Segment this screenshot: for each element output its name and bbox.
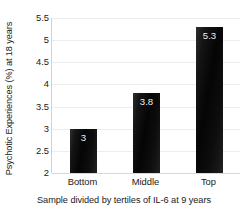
y-axis-tick-label: 4 [18, 79, 49, 89]
bar-chart: Psychotic Experiences (%) at 18 years 5.… [0, 0, 248, 213]
y-axis-tick-label: 4.5 [18, 57, 49, 67]
gridline [52, 173, 240, 174]
y-axis-tick-label: 2.5 [18, 146, 49, 156]
bar-value-label: 5.3 [196, 30, 223, 41]
bar: 3.8 [133, 93, 160, 173]
y-axis-tick-label: 5 [18, 35, 49, 45]
x-axis-title: Sample divided by tertiles of IL-6 at 9 … [0, 194, 248, 207]
y-axis-tick-label: 3.5 [18, 102, 49, 112]
y-axis-tick-label: 2 [18, 168, 49, 178]
bar-value-label: 3 [70, 132, 97, 143]
x-axis-category-label: Middle [114, 175, 177, 188]
bar: 3 [70, 129, 97, 173]
y-axis-tick-label: 5.5 [18, 13, 49, 23]
y-axis-title: Psychotic Experiences (%) at 18 years [1, 11, 17, 186]
y-axis-tick-label: 3 [18, 124, 49, 134]
bar: 5.3 [196, 27, 223, 173]
x-axis-category-label: Top [177, 175, 240, 188]
bars-layer: 33.85.3 [52, 18, 240, 173]
x-axis-category-labels: BottomMiddleTop [51, 175, 240, 189]
plot-area: 33.85.3 [51, 18, 240, 173]
y-axis-tick-labels: 5.554.543.532.52 [18, 0, 49, 213]
x-axis-category-label: Bottom [51, 175, 114, 188]
bar-value-label: 3.8 [133, 96, 160, 107]
